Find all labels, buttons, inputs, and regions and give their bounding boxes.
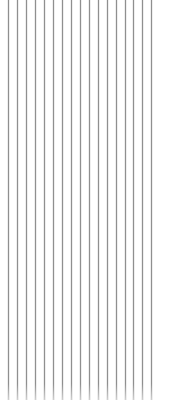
vertical-line (53, 0, 54, 400)
vertical-line (80, 0, 81, 400)
vertical-line (71, 0, 72, 400)
vertical-line (26, 0, 27, 400)
vertical-line (62, 0, 63, 400)
vertical-line (44, 0, 45, 400)
vertical-line (133, 0, 134, 400)
vertical-line (8, 0, 9, 400)
vertical-line (98, 0, 99, 400)
vertical-line (125, 0, 126, 400)
vertical-line (116, 0, 117, 400)
vertical-line (142, 0, 143, 400)
vertical-line (89, 0, 90, 400)
vertical-line (17, 0, 18, 400)
vertical-line (107, 0, 108, 400)
vertical-line (35, 0, 36, 400)
vertical-line (151, 0, 152, 400)
